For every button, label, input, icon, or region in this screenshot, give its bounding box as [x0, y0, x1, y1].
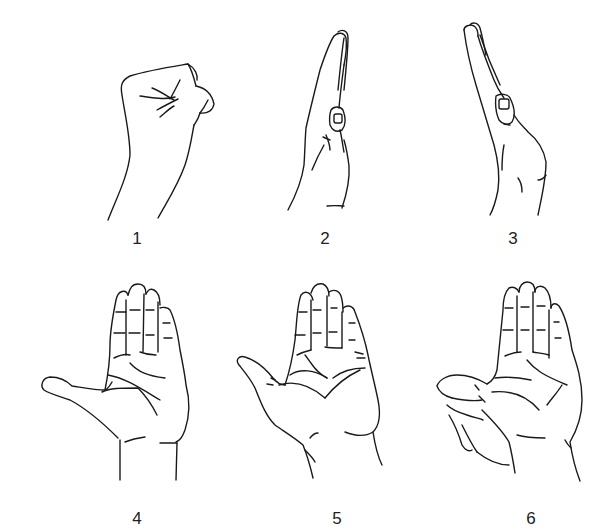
panel-5 [225, 260, 415, 532]
panel-label-3: 3 [503, 230, 523, 247]
panel-label-5: 5 [327, 510, 347, 527]
panel-2 [260, 0, 390, 260]
hand-positions-figure: { "figure": { "panels": [ { "label": "1"… [0, 0, 607, 532]
panel-label-1: 1 [127, 230, 147, 247]
panel-label-4: 4 [127, 510, 147, 527]
panel-6 [417, 260, 607, 532]
panel-3 [430, 0, 580, 260]
open-palm-thumb-raised-drawing [225, 260, 415, 532]
open-palm-thumb-extended-drawing [30, 260, 220, 532]
flat-hand-side-drawing [260, 0, 390, 260]
open-palm-assisted-thumb-drawing [417, 260, 607, 532]
panel-1 [100, 0, 250, 260]
panel-label-6: 6 [521, 510, 541, 527]
panel-4 [30, 260, 220, 532]
flat-hand-thumb-flexed-drawing [430, 0, 580, 260]
fist-drawing [100, 0, 250, 260]
panel-label-2: 2 [315, 230, 335, 247]
